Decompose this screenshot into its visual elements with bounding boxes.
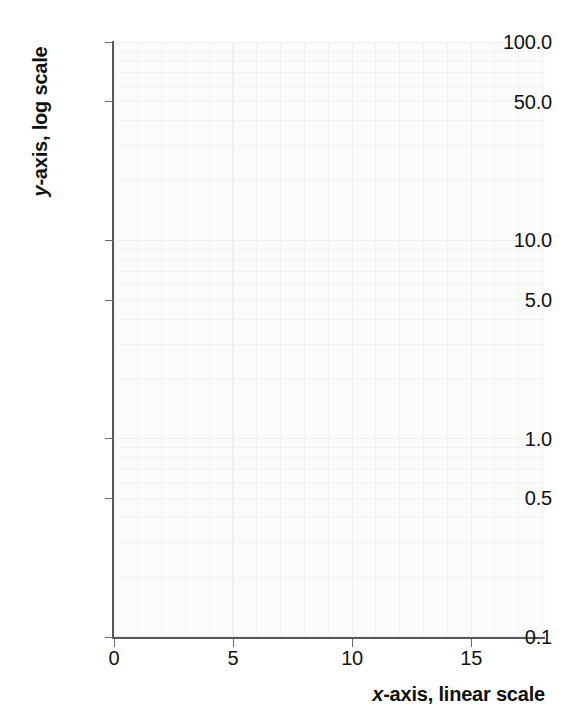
x-tick-label: 10	[312, 648, 392, 668]
y-tick-label: 0.1	[463, 627, 563, 647]
plot-area	[114, 42, 545, 637]
x-tick-mark	[471, 639, 472, 647]
y-tick-label: 50.0	[463, 92, 563, 112]
y-tick-mark	[105, 42, 113, 43]
y-axis-title: y-axis, log scale	[29, 0, 52, 252]
x-tick-label: 5	[193, 648, 273, 668]
y-tick-mark	[105, 240, 113, 241]
x-tick-mark	[352, 639, 353, 647]
y-tick-mark	[105, 300, 113, 301]
x-axis-title-variable: x	[372, 683, 383, 705]
x-tick-label: 15	[431, 648, 511, 668]
y-tick-label: 10.0	[463, 230, 563, 250]
y-axis-title-variable: y	[29, 186, 51, 197]
y-tick-label: 1.0	[463, 429, 563, 449]
x-tick-mark	[114, 639, 115, 647]
x-tick-label: 0	[74, 648, 154, 668]
y-tick-label: 100.0	[463, 32, 563, 52]
y-tick-mark	[105, 101, 113, 102]
y-tick-label: 0.5	[463, 488, 563, 508]
y-axis-line	[112, 41, 114, 639]
semi-log-graph-figure: 100.050.010.05.01.00.50.1051015 y-axis, …	[0, 0, 563, 726]
y-axis-title-text: -axis, log scale	[29, 46, 51, 185]
x-axis-title: x-axis, linear scale	[245, 683, 545, 706]
grid-lines	[114, 42, 545, 637]
y-tick-label: 5.0	[463, 290, 563, 310]
x-tick-mark	[233, 639, 234, 647]
y-tick-mark	[105, 637, 113, 638]
y-tick-mark	[105, 438, 113, 439]
y-tick-mark	[105, 498, 113, 499]
x-axis-title-text: -axis, linear scale	[383, 683, 545, 705]
